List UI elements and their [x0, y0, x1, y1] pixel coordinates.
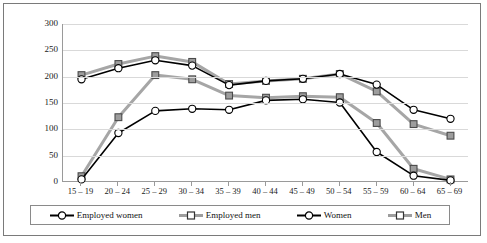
x-axis-tick-label: 25 – 29 — [142, 186, 168, 196]
y-axis-tick-label: 250 — [24, 45, 58, 54]
data-point-marker — [152, 57, 159, 64]
x-axis-tick-label: 65 – 69 — [437, 186, 463, 196]
x-axis-tick-mark — [339, 182, 340, 186]
x-axis-tick-label: 40 – 44 — [252, 186, 278, 196]
data-point-marker — [226, 106, 233, 113]
gridline — [63, 77, 468, 78]
data-point-marker — [373, 81, 380, 88]
x-axis-tick-label: 30 – 34 — [178, 186, 204, 196]
line-circle-marker-black-icon — [49, 210, 75, 221]
line-circle-marker-black-icon — [296, 210, 322, 221]
legend-label: Men — [415, 211, 432, 220]
y-axis-tick-label: 100 — [24, 124, 58, 133]
data-point-marker — [226, 92, 233, 99]
x-axis-tick-mark — [228, 182, 229, 186]
data-point-marker — [152, 107, 159, 114]
data-point-marker — [299, 96, 306, 103]
x-axis-tick-label: 35 – 39 — [215, 186, 241, 196]
legend-item-employed-women[interactable]: Employed women — [49, 210, 143, 221]
legend-label: Employed men — [206, 211, 261, 220]
data-point-marker — [189, 105, 196, 112]
gridline — [63, 50, 468, 51]
gridline — [63, 156, 468, 157]
x-axis-tick-label: 60 – 64 — [400, 186, 426, 196]
x-axis-tick-mark — [265, 182, 266, 186]
plot-area — [62, 24, 468, 182]
data-point-marker — [115, 129, 122, 136]
x-axis-tick-label: 15 – 19 — [68, 186, 94, 196]
legend-label: Women — [324, 211, 352, 220]
y-axis-tick-label: 150 — [24, 98, 58, 107]
data-point-marker — [226, 82, 233, 89]
data-point-marker — [447, 132, 454, 139]
x-axis-tick-mark — [80, 182, 81, 186]
legend-item-employed-men[interactable]: Employed men — [178, 210, 261, 221]
y-axis-tick-label: 200 — [24, 72, 58, 81]
x-axis-tick-mark — [376, 182, 377, 186]
gridline — [63, 24, 468, 25]
line-square-marker-gray-icon — [387, 210, 413, 221]
y-axis-tick-label: 300 — [24, 19, 58, 28]
y-axis-tick-label: 0 — [24, 177, 58, 186]
x-axis-labels: 15 – 1920 – 2425 – 2930 – 3435 – 3940 – … — [62, 182, 468, 202]
chart-screenshot: 050100150200250300 15 – 1920 – 2425 – 29… — [0, 0, 487, 243]
x-axis-tick-label: 45 – 49 — [289, 186, 315, 196]
y-axis-tick-label: 50 — [24, 151, 58, 160]
x-axis-tick-label: 55 – 59 — [363, 186, 389, 196]
data-point-marker — [447, 115, 454, 122]
data-point-marker — [189, 62, 196, 69]
legend-label: Employed women — [77, 211, 143, 220]
data-point-marker — [373, 120, 380, 127]
x-axis-tick-mark — [117, 182, 118, 186]
data-point-marker — [115, 114, 122, 121]
legend-item-men[interactable]: Men — [387, 210, 432, 221]
line-square-marker-gray-icon — [178, 210, 204, 221]
x-axis-tick-mark — [302, 182, 303, 186]
x-axis-tick-mark — [154, 182, 155, 186]
x-axis-tick-mark — [413, 182, 414, 186]
chart-frame: 050100150200250300 15 – 1920 – 2425 – 29… — [3, 3, 481, 236]
x-axis-tick-label: 50 – 54 — [326, 186, 352, 196]
data-point-marker — [115, 65, 122, 72]
data-point-marker — [373, 148, 380, 155]
data-point-marker — [410, 106, 417, 113]
x-axis-tick-mark — [450, 182, 451, 186]
gridline — [63, 129, 468, 130]
x-axis-tick-mark — [191, 182, 192, 186]
data-point-marker — [410, 121, 417, 128]
data-point-marker — [410, 165, 417, 172]
x-axis-tick-label: 20 – 24 — [105, 186, 131, 196]
data-point-marker — [410, 172, 417, 179]
gridline — [63, 103, 468, 104]
legend-item-women[interactable]: Women — [296, 210, 352, 221]
y-axis-ticks: 050100150200250300 — [22, 24, 58, 182]
chart-plot-container: 050100150200250300 15 – 1920 – 2425 – 29… — [22, 12, 474, 204]
series-women — [78, 57, 454, 123]
data-point-marker — [373, 88, 380, 95]
chart-legend: Employed womenEmployed menWomenMen — [30, 205, 450, 225]
data-point-marker — [262, 77, 269, 84]
